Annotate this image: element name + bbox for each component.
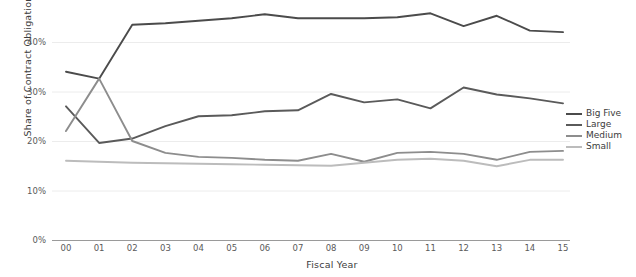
y-tick-label: 40% xyxy=(20,37,46,47)
legend-label: Small xyxy=(586,141,611,152)
x-tick-label: 03 xyxy=(152,243,178,253)
series-line-big-five xyxy=(66,13,563,78)
legend-swatch xyxy=(566,113,582,115)
x-tick-label: 00 xyxy=(53,243,79,253)
x-tick-label: 06 xyxy=(252,243,278,253)
legend-label: Big Five xyxy=(586,108,621,119)
x-tick-label: 08 xyxy=(318,243,344,253)
x-tick-label: 02 xyxy=(119,243,145,253)
x-tick-label: 11 xyxy=(417,243,443,253)
chart-legend: Big FiveLargeMediumSmall xyxy=(566,108,622,152)
series-line-medium xyxy=(66,79,563,162)
y-tick-label: 20% xyxy=(20,136,46,146)
legend-label: Medium xyxy=(586,130,622,141)
x-tick-label: 01 xyxy=(86,243,112,253)
line-chart: Share of Contract Obligations Fiscal Yea… xyxy=(0,0,636,277)
legend-swatch xyxy=(566,146,582,148)
x-tick-label: 10 xyxy=(384,243,410,253)
legend-swatch xyxy=(566,124,582,126)
legend-swatch xyxy=(566,135,582,137)
y-tick-label: 0% xyxy=(20,235,46,245)
legend-label: Large xyxy=(586,119,611,130)
x-tick-label: 12 xyxy=(451,243,477,253)
series-line-large xyxy=(66,88,563,143)
x-tick-label: 07 xyxy=(285,243,311,253)
series-line-small xyxy=(66,159,563,166)
x-tick-label: 09 xyxy=(351,243,377,253)
legend-item[interactable]: Small xyxy=(566,141,622,152)
legend-item[interactable]: Big Five xyxy=(566,108,622,119)
legend-item[interactable]: Large xyxy=(566,119,622,130)
y-tick-label: 30% xyxy=(20,87,46,97)
x-tick-label: 15 xyxy=(550,243,576,253)
legend-item[interactable]: Medium xyxy=(566,130,622,141)
x-tick-label: 05 xyxy=(219,243,245,253)
x-tick-label: 14 xyxy=(517,243,543,253)
y-tick-label: 10% xyxy=(20,186,46,196)
x-tick-label: 13 xyxy=(484,243,510,253)
x-tick-label: 04 xyxy=(186,243,212,253)
plot-area xyxy=(0,0,636,277)
